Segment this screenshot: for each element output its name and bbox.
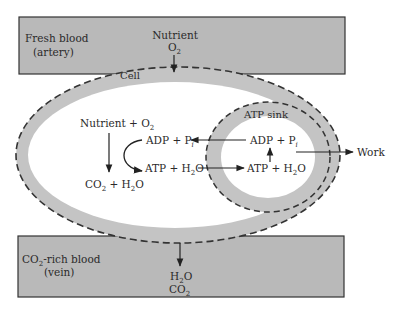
cell-metabolism-diagram: Fresh blood (artery) Nutrient O2 Cell Nu…	[0, 0, 395, 316]
artery-subtitle: (artery)	[33, 46, 74, 58]
work-label: Work	[357, 146, 385, 158]
artery-title: Fresh blood	[25, 32, 89, 44]
nutrient-input-label: Nutrient	[152, 29, 199, 41]
atp-sink-interior	[221, 116, 315, 198]
cell-label: Cell	[120, 70, 140, 81]
vein-subtitle: (vein)	[44, 266, 74, 278]
atp-sink-label: ATP sink	[243, 109, 289, 120]
